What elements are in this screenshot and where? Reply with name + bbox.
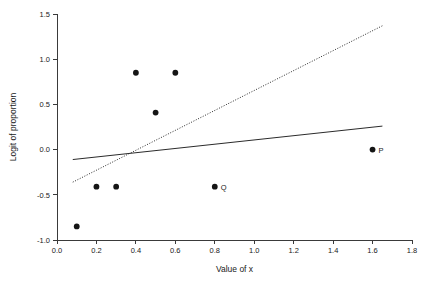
scatter-plot-figure: 0.00.20.40.60.81.01.21.41.61.81.51.00.50… <box>0 0 433 287</box>
x-tick-label: 0.8 <box>210 246 220 255</box>
x-tick-label: 1.4 <box>328 246 338 255</box>
data-point-marker <box>133 70 139 76</box>
data-point-marker <box>74 224 80 230</box>
y-tick-label: -1.0 <box>37 236 50 245</box>
y-tick-label: 1.5 <box>40 10 50 19</box>
x-axis-title: Value of x <box>216 264 254 274</box>
data-point-marker <box>94 184 100 190</box>
plot-canvas: 0.00.20.40.60.81.01.21.41.61.81.51.00.50… <box>0 0 433 287</box>
x-tick-label: 0.0 <box>52 246 62 255</box>
data-point-marker <box>370 147 376 153</box>
y-axis-title: Logit of proportion <box>8 92 18 161</box>
plot-background <box>0 0 433 287</box>
data-point-marker <box>212 184 218 190</box>
y-tick-label: 0.5 <box>40 100 50 109</box>
y-tick-label: -0.5 <box>37 191 50 200</box>
x-tick-label: 0.4 <box>131 246 141 255</box>
x-tick-label: 1.2 <box>288 246 298 255</box>
y-tick-label: 1.0 <box>40 55 50 64</box>
x-tick-label: 1.8 <box>407 246 417 255</box>
y-tick-label: 0.0 <box>40 145 50 154</box>
data-point-label: Q <box>221 183 227 192</box>
x-tick-label: 1.6 <box>367 246 377 255</box>
data-point-label: P <box>379 146 384 155</box>
data-point-marker <box>172 70 178 76</box>
data-point-marker <box>113 184 119 190</box>
data-point-marker <box>153 110 159 116</box>
x-tick-label: 1.0 <box>249 246 259 255</box>
x-tick-label: 0.2 <box>91 246 101 255</box>
x-tick-label: 0.6 <box>170 246 180 255</box>
